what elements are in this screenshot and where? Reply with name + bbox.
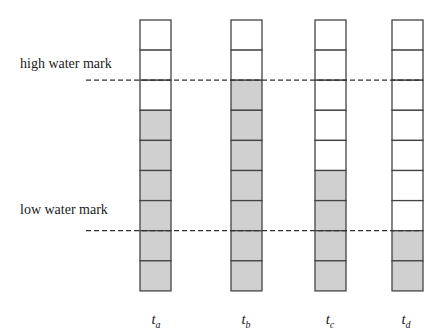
filled-cell [231,171,262,201]
high-water-mark-label: high water mark [20,56,112,72]
empty-cell [392,110,423,140]
empty-cell [392,171,423,201]
filled-cell [315,171,346,201]
empty-cell [315,110,346,140]
empty-cell [392,50,423,80]
filled-cell [231,110,262,140]
empty-cell [392,201,423,231]
empty-cell [140,50,171,80]
empty-cell [392,140,423,170]
empty-cell [315,50,346,80]
filled-cell [140,110,171,140]
empty-cell [231,50,262,80]
column-label-tb: tb [226,311,266,330]
column-b [231,20,262,291]
filled-cell [140,140,171,170]
low-water-mark-label: low water mark [20,202,108,218]
filled-cell [231,231,262,261]
filled-cell [140,171,171,201]
empty-cell [315,140,346,170]
column-label-td: td [386,311,426,330]
filled-cell [140,201,171,231]
empty-cell [140,20,171,50]
empty-cell [315,20,346,50]
filled-cell [392,231,423,261]
column-a [140,20,171,291]
filled-cell [315,261,346,291]
column-c [315,20,346,291]
empty-cell [392,20,423,50]
empty-cell [231,20,262,50]
filled-cell [231,261,262,291]
column-label-tc: tc [310,311,350,330]
column-label-ta: ta [136,311,176,330]
filled-cell [315,231,346,261]
water-mark-diagram [0,0,441,335]
filled-cell [392,261,423,291]
empty-cell [140,80,171,110]
empty-cell [315,80,346,110]
filled-cell [315,201,346,231]
filled-cell [231,140,262,170]
filled-cell [231,201,262,231]
column-d [392,20,423,291]
filled-cell [140,231,171,261]
filled-cell [140,261,171,291]
filled-cell [231,80,262,110]
empty-cell [392,80,423,110]
